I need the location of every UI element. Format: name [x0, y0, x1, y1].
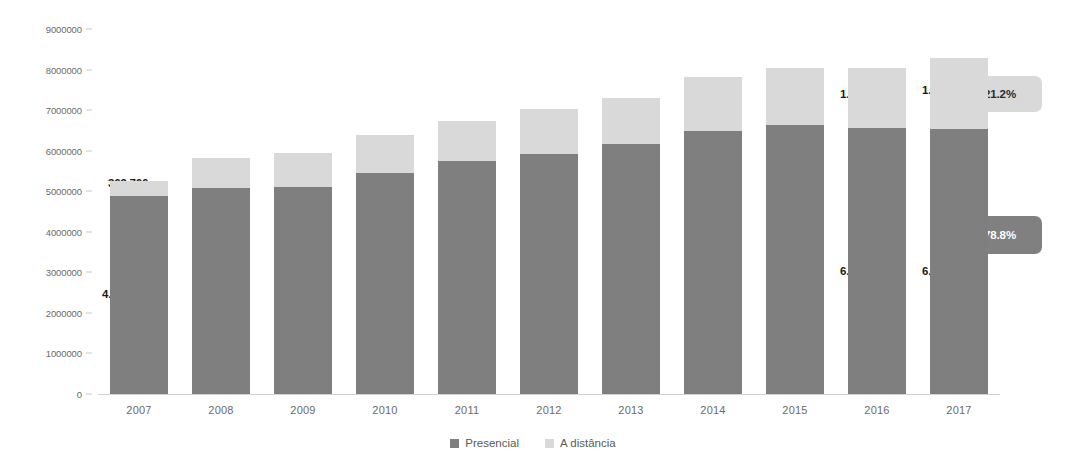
x-axis-tick-label: 2008 [180, 404, 262, 416]
bar-column [438, 121, 496, 394]
bar-segment-distancia [438, 121, 496, 161]
x-axis-tick-label: 2015 [754, 404, 836, 416]
bar-column [684, 77, 742, 394]
bar-segment-presencial [192, 188, 250, 394]
y-axis-tick-mark [86, 150, 92, 151]
y-axis-tick-mark [86, 231, 92, 232]
y-axis-tick-label: 0 [77, 389, 82, 400]
bar-segment-presencial [930, 129, 988, 394]
y-axis: 9000000800000070000006000000500000040000… [0, 0, 98, 470]
x-axis-tick-label: 2016 [836, 404, 918, 416]
bar-segment-presencial [848, 128, 906, 394]
bar-segment-presencial [766, 125, 824, 394]
y-axis-tick-label: 6000000 [46, 145, 82, 156]
y-axis-tick-label: 7000000 [46, 105, 82, 116]
bar-segment-presencial [602, 144, 660, 394]
legend-item-label: A distância [560, 437, 616, 449]
legend-swatch-icon [545, 439, 554, 448]
bar-segment-presencial [274, 187, 332, 394]
y-axis-tick-mark [86, 312, 92, 313]
bar-segment-distancia [274, 153, 332, 187]
y-axis-tick-label: 5000000 [46, 186, 82, 197]
bar-segment-presencial [110, 196, 168, 394]
y-axis-tick-mark [86, 191, 92, 192]
bar-column [766, 68, 824, 394]
callout-top-label: 21.2% [984, 88, 1016, 100]
bar-column [274, 153, 332, 394]
bar-column [930, 58, 988, 394]
legend-item-label: Presencial [465, 437, 519, 449]
y-axis-tick-label: 3000000 [46, 267, 82, 278]
y-axis-tick-label: 8000000 [46, 64, 82, 75]
x-axis-tick-label: 2011 [426, 404, 508, 416]
y-axis-tick-mark [86, 110, 92, 111]
bar-segment-distancia [684, 77, 742, 131]
bar-column [192, 158, 250, 394]
axis-baseline [98, 394, 1000, 395]
bar-segment-distancia [766, 68, 824, 125]
y-axis-tick-label: 9000000 [46, 24, 82, 35]
x-axis-tick-label: 2012 [508, 404, 590, 416]
y-axis-tick-mark [86, 69, 92, 70]
bar-segment-distancia [602, 98, 660, 145]
bar-segment-distancia [356, 135, 414, 173]
y-axis-tick-label: 4000000 [46, 226, 82, 237]
legend-swatch-icon [450, 439, 459, 448]
y-axis-tick-label: 2000000 [46, 307, 82, 318]
x-axis-tick-label: 2009 [262, 404, 344, 416]
chart-legend: PresencialA distância [0, 437, 1066, 449]
bar-column [110, 181, 168, 394]
y-axis-tick-mark [86, 394, 92, 395]
y-axis-tick-mark [86, 272, 92, 273]
x-axis-tick-label: 2014 [672, 404, 754, 416]
bar-column [602, 98, 660, 394]
bar-segment-distancia [930, 58, 988, 129]
bar-segment-presencial [356, 173, 414, 394]
bar-segment-presencial [520, 154, 578, 394]
y-axis-tick-mark [86, 29, 92, 30]
bar-column [356, 135, 414, 394]
callout-bottom-label: 78.8% [984, 229, 1016, 241]
y-axis-tick-label: 1000000 [46, 348, 82, 359]
x-axis-tick-label: 2013 [590, 404, 672, 416]
x-axis-tick-label: 2017 [918, 404, 1000, 416]
bar-segment-distancia [848, 68, 906, 129]
bar-segment-presencial [684, 131, 742, 394]
bar-column [848, 68, 906, 394]
y-axis-tick-mark [86, 353, 92, 354]
stacked-bar-chart: 9000000800000070000006000000500000040000… [0, 0, 1066, 470]
bar-segment-distancia [110, 181, 168, 196]
bar-column [520, 109, 578, 394]
legend-item[interactable]: Presencial [450, 437, 519, 449]
bar-segment-distancia [520, 109, 578, 154]
bar-segment-presencial [438, 161, 496, 394]
legend-item[interactable]: A distância [545, 437, 616, 449]
x-axis-tick-label: 2007 [98, 404, 180, 416]
bar-segment-distancia [192, 158, 250, 188]
x-axis-tick-label: 2010 [344, 404, 426, 416]
